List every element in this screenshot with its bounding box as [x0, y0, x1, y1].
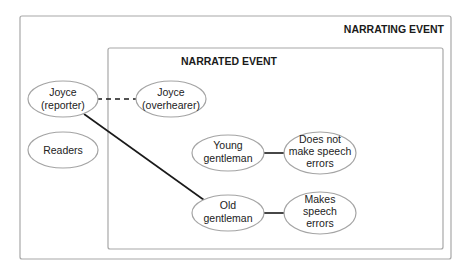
node-label: Joyce — [157, 86, 185, 98]
node-label: Makes — [305, 193, 336, 205]
node-label: speech — [303, 205, 337, 217]
node-label: errors — [306, 157, 333, 169]
narrative-diagram: NARRATING EVENT NARRATED EVENT Joyce (re… — [0, 0, 469, 273]
node-label: Joyce — [49, 86, 77, 98]
node-label: Old — [220, 199, 237, 211]
node-joyce-overhearer: Joyce (overhearer) — [136, 81, 206, 117]
edge-reporter-old-gentleman — [84, 114, 204, 200]
node-does-not-make-speech-errors: Does not make speech errors — [284, 132, 356, 174]
node-readers: Readers — [28, 132, 98, 168]
node-label: Does not — [299, 133, 341, 145]
node-label: errors — [306, 217, 333, 229]
node-label: gentleman — [203, 152, 252, 164]
node-label: Readers — [43, 144, 83, 156]
node-label: gentleman — [203, 212, 252, 224]
node-label: (overhearer) — [142, 99, 200, 111]
node-young-gentleman: Young gentleman — [192, 135, 264, 171]
node-label: make speech — [289, 145, 352, 157]
narrated-event-frame — [108, 48, 443, 249]
node-old-gentleman: Old gentleman — [192, 195, 264, 231]
node-joyce-reporter: Joyce (reporter) — [28, 81, 98, 117]
node-label: Young — [213, 139, 243, 151]
narrated-event-title: NARRATED EVENT — [181, 55, 278, 67]
node-makes-speech-errors: Makes speech errors — [284, 192, 356, 234]
node-label: (reporter) — [41, 99, 85, 111]
narrating-event-title: NARRATING EVENT — [344, 23, 445, 35]
